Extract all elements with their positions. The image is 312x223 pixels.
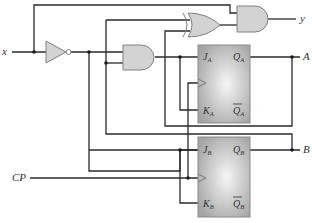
output-label-a: A (302, 50, 310, 62)
junction-dot (186, 176, 190, 180)
flip-flop-a: JA KA QA QA (198, 45, 250, 123)
flip-flop-b: JB KB QB QB (198, 137, 250, 217)
and-gate-top (237, 6, 268, 32)
junction-dot (290, 148, 294, 152)
junction-dot (32, 50, 36, 54)
inverter-gate (46, 41, 71, 63)
junction-dot (87, 50, 91, 54)
xor-gate (183, 13, 220, 37)
output-label-y: y (299, 12, 305, 24)
wire-kb (180, 150, 198, 203)
junction-dot (290, 55, 294, 59)
junction-dot (178, 55, 182, 59)
wire-cp-to-ffa (188, 83, 198, 178)
input-label-cp: CP (12, 171, 26, 183)
junction-dot (104, 61, 108, 65)
input-label-x: x (1, 45, 7, 57)
circuit-diagram: JA KA QA QA JB KB QB QB x CP y A B (0, 0, 312, 223)
output-label-b: B (303, 143, 310, 155)
and-gate-mid (123, 45, 154, 70)
junction-dot (178, 148, 182, 152)
